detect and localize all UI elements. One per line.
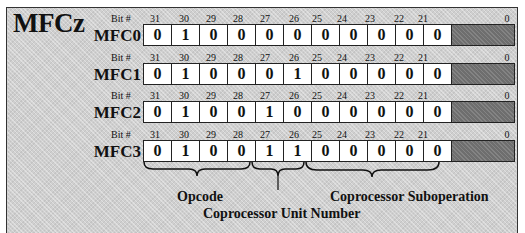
bit-number: 22 (394, 90, 404, 101)
unused-bits-block (451, 140, 515, 162)
bit-cell: 0 (256, 64, 284, 84)
bit-cell: 1 (172, 141, 200, 161)
bit-number: 25 (312, 129, 322, 140)
bit-cell: 1 (172, 102, 200, 122)
bit-number-last: 0 (505, 90, 510, 101)
bit-cell: 0 (340, 141, 368, 161)
bit-cell: 0 (144, 102, 172, 122)
bit-number: 23 (365, 90, 375, 101)
bit-number: 23 (365, 129, 375, 140)
bit-number: 27 (260, 52, 270, 63)
unit-number-brace (252, 162, 304, 176)
bit-cell: 1 (172, 25, 200, 45)
bit-cell: 0 (144, 141, 172, 161)
bit-prefix: Bit # (111, 90, 131, 101)
bit-number: 24 (337, 13, 347, 24)
bit-number: 30 (179, 129, 189, 140)
bit-number: 28 (233, 90, 243, 101)
bit-number: 25 (312, 90, 322, 101)
bit-cell: 0 (144, 25, 172, 45)
unused-bits-block (451, 101, 515, 123)
bit-number: 31 (150, 13, 160, 24)
bit-number: 30 (179, 13, 189, 24)
bit-number: 31 (150, 129, 160, 140)
bit-cells: 01000100000 (143, 63, 452, 85)
bit-cell: 0 (200, 25, 228, 45)
bit-number: 31 (150, 52, 160, 63)
bit-number: 28 (233, 129, 243, 140)
bit-cell: 1 (256, 141, 284, 161)
bit-number: 24 (337, 52, 347, 63)
bit-cell: 0 (396, 25, 424, 45)
bit-number-last: 0 (505, 52, 510, 63)
bit-number: 25 (312, 13, 322, 24)
bit-prefix: Bit # (111, 52, 131, 63)
bit-number: 28 (233, 13, 243, 24)
register-row-mfc1: Bit #31302928272625242322210MFC101000100… (7, 52, 517, 92)
bit-number: 29 (206, 129, 216, 140)
bit-number: 30 (179, 52, 189, 63)
bit-number: 22 (394, 129, 404, 140)
register-row-mfc0: Bit #31302928272625242322210MFC001000000… (7, 13, 517, 53)
bit-number-last: 0 (505, 13, 510, 24)
bit-number: 24 (337, 129, 347, 140)
unused-bits-block (451, 63, 515, 85)
opcode-brace (144, 162, 250, 176)
bit-number: 29 (206, 90, 216, 101)
bit-number: 30 (179, 90, 189, 101)
bit-cell: 0 (340, 64, 368, 84)
mfcz-diagram: MFCz Bit #31302928272625242322210MFC0010… (6, 7, 518, 233)
suboperation-brace (306, 162, 439, 177)
unit-number-label: Coprocessor Unit Number (203, 206, 360, 222)
bit-cell: 0 (200, 102, 228, 122)
bit-number: 27 (260, 129, 270, 140)
register-label: MFC3 (94, 142, 141, 162)
bit-cell: 1 (284, 64, 312, 84)
bit-number: 31 (150, 90, 160, 101)
bit-cell: 1 (256, 102, 284, 122)
bit-cell: 0 (396, 64, 424, 84)
bit-cell: 0 (228, 141, 256, 161)
bit-cell: 1 (284, 141, 312, 161)
register-label: MFC1 (94, 65, 141, 85)
bit-cell: 0 (340, 25, 368, 45)
bit-number: 23 (365, 13, 375, 24)
bit-cell: 0 (424, 102, 451, 122)
bit-cells: 01000000000 (143, 24, 452, 46)
bit-number: 26 (289, 52, 299, 63)
bit-number: 27 (260, 90, 270, 101)
bit-cell: 0 (200, 64, 228, 84)
bit-cell: 0 (228, 64, 256, 84)
bit-number: 26 (289, 129, 299, 140)
field-braces (7, 160, 517, 190)
bit-cell: 0 (312, 102, 340, 122)
bit-cell: 0 (424, 64, 451, 84)
bit-number: 24 (337, 90, 347, 101)
bit-number-last: 0 (505, 129, 510, 140)
suboperation-label: Coprocessor Suboperation (330, 189, 489, 205)
bit-cell: 0 (256, 25, 284, 45)
bit-cell: 0 (396, 141, 424, 161)
bit-number: 26 (289, 90, 299, 101)
bit-cells: 01001100000 (143, 140, 452, 162)
bit-number: 28 (233, 52, 243, 63)
bit-cell: 0 (284, 102, 312, 122)
bit-cell: 0 (312, 25, 340, 45)
bit-cell: 0 (228, 102, 256, 122)
bit-number: 29 (206, 52, 216, 63)
bit-number: 21 (418, 13, 428, 24)
bit-number: 21 (418, 52, 428, 63)
bit-cell: 0 (144, 64, 172, 84)
bit-number: 21 (418, 90, 428, 101)
bit-prefix: Bit # (111, 129, 131, 140)
register-label: MFC2 (94, 103, 141, 123)
bit-cell: 0 (368, 141, 396, 161)
bit-cell: 0 (312, 64, 340, 84)
bit-cell: 0 (424, 25, 451, 45)
bit-cell: 0 (340, 102, 368, 122)
bit-cell: 0 (368, 25, 396, 45)
bit-cell: 0 (368, 64, 396, 84)
bit-cell: 0 (228, 25, 256, 45)
bit-cell: 0 (396, 102, 424, 122)
register-label: MFC0 (94, 26, 141, 46)
